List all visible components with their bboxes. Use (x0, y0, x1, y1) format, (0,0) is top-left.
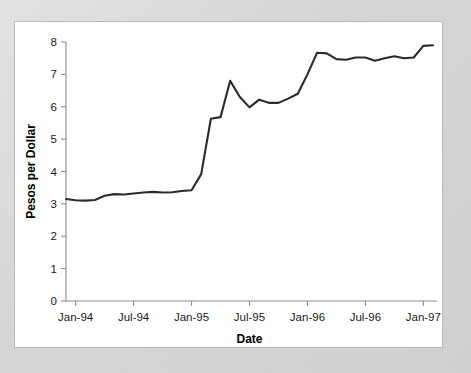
x-axis-title: Date (236, 332, 262, 346)
y-tick-label: 3 (51, 198, 57, 210)
x-tick-label: Jan-94 (58, 311, 94, 323)
x-tick-label: Jan-95 (174, 311, 209, 323)
chart-panel: 012345678Jan-94Jul-94Jan-95Jul-95Jan-96J… (14, 21, 443, 348)
y-tick-label: 7 (51, 68, 57, 80)
y-tick-label: 1 (51, 263, 57, 275)
x-tick-label: Jan-97 (406, 311, 441, 323)
y-tick-label: 5 (51, 133, 57, 145)
figure-outer-frame: 012345678Jan-94Jul-94Jan-95Jul-95Jan-96J… (0, 0, 471, 373)
chart-svg: 012345678Jan-94Jul-94Jan-95Jul-95Jan-96J… (15, 22, 444, 349)
y-axis-title: Pesos per Dollar (24, 124, 38, 219)
y-tick-label: 6 (51, 101, 57, 113)
x-tick-label: Jan-96 (290, 311, 325, 323)
y-tick-label: 0 (51, 295, 57, 307)
y-tick-label: 8 (51, 36, 57, 48)
x-tick-label: Jul-96 (350, 311, 381, 323)
y-tick-label: 2 (51, 230, 57, 242)
y-tick-label: 4 (51, 166, 58, 178)
x-tick-label: Jul-94 (118, 311, 150, 323)
data-series-line (66, 45, 433, 200)
x-tick-label: Jul-95 (234, 311, 265, 323)
